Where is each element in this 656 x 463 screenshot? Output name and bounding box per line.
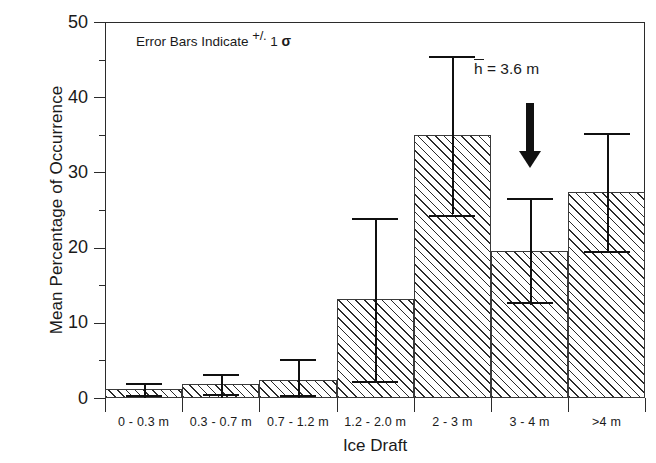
error-bar-cap-upper-6 — [584, 133, 630, 135]
x-tick-label-6: >4 m — [568, 415, 645, 429]
error-bar-cap-upper-2 — [280, 359, 316, 361]
x-tick-label-2: 0.7 - 1.2 m — [259, 415, 336, 429]
error-bar-annotation-value: 1 — [267, 34, 282, 49]
y-tick-label-40: 40 — [28, 88, 88, 106]
error-bar-cap-lower-1 — [203, 394, 239, 396]
x-tick-label-1: 0.3 - 0.7 m — [182, 415, 259, 429]
h-bar-symbol: h — [474, 60, 483, 78]
x-tick-label-0: 0 - 0.3 m — [105, 415, 182, 429]
x-tick-7 — [645, 398, 646, 412]
y-major-tick-0 — [94, 398, 105, 399]
error-bar-stem-5 — [530, 198, 532, 305]
plus-minus-glyph: +/. — [252, 28, 266, 43]
y-major-tick-20 — [94, 248, 105, 249]
error-bar-cap-upper-0 — [126, 383, 162, 385]
x-tick-label-4: 2 - 3 m — [414, 415, 491, 429]
error-bar-stem-6 — [607, 133, 609, 250]
y-tick-label-50: 50 — [28, 13, 88, 31]
error-bar-stem-4 — [452, 56, 454, 214]
down-arrow-icon — [515, 103, 545, 169]
error-bar-cap-lower-5 — [507, 302, 553, 304]
error-bar-cap-upper-5 — [507, 198, 553, 200]
x-tick-6 — [568, 398, 569, 412]
x-tick-2 — [259, 398, 260, 412]
error-bar-cap-lower-2 — [280, 395, 316, 397]
y-major-tick-50 — [94, 22, 105, 23]
ice-draft-histogram-figure: Mean Percentage of Occurrence 50 40 30 2… — [0, 0, 656, 463]
error-bar-cap-lower-6 — [584, 251, 630, 253]
error-bar-cap-upper-3 — [352, 218, 398, 220]
error-bar-cap-lower-0 — [126, 395, 162, 397]
x-tick-5 — [491, 398, 492, 412]
error-bar-cap-lower-3 — [352, 381, 398, 383]
error-bar-stem-3 — [375, 218, 377, 381]
x-axis-title: Ice Draft — [105, 436, 645, 456]
x-tick-label-3: 1.2 - 2.0 m — [337, 415, 414, 429]
error-bar-annotation: Error Bars Indicate +/. 1 σ — [136, 28, 291, 49]
y-major-tick-30 — [94, 172, 105, 173]
x-tick-3 — [337, 398, 338, 412]
mean-draft-annotation: h = 3.6 m — [474, 60, 539, 78]
y-tick-label-0: 0 — [28, 389, 88, 407]
y-major-tick-40 — [94, 97, 105, 98]
error-bar-stem-2 — [298, 359, 300, 398]
sigma-symbol: σ — [282, 33, 292, 49]
y-tick-label-30: 30 — [28, 163, 88, 181]
error-bar-annotation-prefix: Error Bars Indicate — [136, 34, 252, 49]
error-bar-cap-upper-4 — [429, 56, 475, 58]
x-tick-0 — [105, 398, 106, 412]
y-axis-title: Mean Percentage of Occurrence — [47, 20, 67, 400]
x-tick-4 — [414, 398, 415, 412]
x-tick-label-5: 3 - 4 m — [491, 415, 568, 429]
y-major-tick-10 — [94, 323, 105, 324]
y-tick-label-20: 20 — [28, 238, 88, 256]
error-bar-cap-upper-1 — [203, 374, 239, 376]
y-tick-label-10: 10 — [28, 313, 88, 331]
error-bar-cap-lower-4 — [429, 215, 475, 217]
mean-draft-value: = 3.6 m — [483, 60, 539, 77]
x-tick-1 — [182, 398, 183, 412]
